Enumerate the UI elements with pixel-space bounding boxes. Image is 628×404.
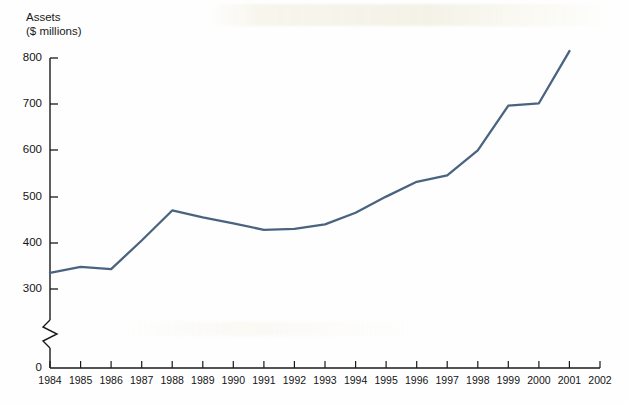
y-tick-label-300: 300 — [8, 282, 42, 294]
x-tick-label-1994: 1994 — [339, 374, 373, 386]
x-tick-marks — [50, 361, 600, 368]
x-tick-label-1997: 1997 — [430, 374, 464, 386]
x-tick-label-1991: 1991 — [247, 374, 281, 386]
x-tick-label-1993: 1993 — [308, 374, 342, 386]
y-tick-label-0: 0 — [8, 361, 42, 373]
x-tick-label-1998: 1998 — [461, 374, 495, 386]
x-tick-label-1996: 1996 — [400, 374, 434, 386]
x-tick-label-1984: 1984 — [33, 374, 67, 386]
y-tick-label-500: 500 — [8, 190, 42, 202]
y-tick-label-700: 700 — [8, 97, 42, 109]
x-tick-label-1987: 1987 — [125, 374, 159, 386]
y-axis-break-icon — [43, 320, 57, 348]
x-tick-label-2001: 2001 — [552, 374, 586, 386]
x-tick-label-1995: 1995 — [369, 374, 403, 386]
y-tick-label-800: 800 — [8, 51, 42, 63]
y-tick-label-600: 600 — [8, 143, 42, 155]
x-tick-label-1990: 1990 — [216, 374, 250, 386]
x-tick-label-2002: 2002 — [583, 374, 617, 386]
y-tick-label-400: 400 — [8, 236, 42, 248]
x-tick-label-1985: 1985 — [64, 374, 98, 386]
x-tick-label-1989: 1989 — [186, 374, 220, 386]
x-tick-label-1986: 1986 — [94, 374, 128, 386]
chart-figure: Assets ($ millions) — [0, 0, 628, 404]
chart-plot-area — [0, 0, 628, 404]
x-tick-label-2000: 2000 — [522, 374, 556, 386]
x-tick-label-1988: 1988 — [155, 374, 189, 386]
x-tick-label-1992: 1992 — [277, 374, 311, 386]
assets-data-line — [50, 51, 569, 273]
x-tick-label-1999: 1999 — [491, 374, 525, 386]
